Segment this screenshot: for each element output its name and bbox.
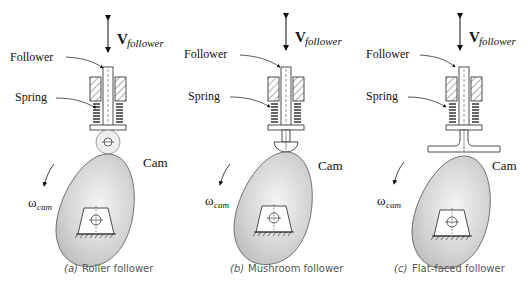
rotation-arrow-icon: [220, 164, 230, 185]
follower-label: Follower: [366, 47, 409, 61]
cam-shape: [56, 154, 134, 267]
omega-label: ω: [205, 193, 214, 208]
velocity-subscript: follower: [127, 37, 164, 49]
rotation-arrow-icon: [44, 164, 54, 186]
cam-label: Cam: [143, 155, 168, 170]
caption-letter: (a): [64, 263, 78, 274]
follower-label: Follower: [184, 47, 227, 61]
follower-stem-assembly: [90, 67, 126, 130]
follower-pointer-icon: [240, 55, 280, 67]
cam-label: Cam: [492, 158, 517, 173]
rotation-arrow-icon: [394, 162, 404, 184]
cam-shape: [412, 156, 490, 269]
follower-label: Follower: [10, 50, 53, 64]
caption-letter: (c): [394, 263, 407, 274]
velocity-subscript: follower: [305, 35, 342, 47]
spring-label: Spring: [15, 90, 47, 104]
omega-subscript: cam: [37, 202, 52, 212]
follower-stem-assembly: [268, 67, 304, 130]
spring-pointer-icon: [408, 97, 446, 107]
diagram-roller-follower: V follower Follower Spring Cam ω cam (a)…: [10, 20, 168, 274]
omega-label: ω: [377, 193, 386, 208]
caption-letter: (b): [230, 263, 244, 274]
follower-stem-assembly: [446, 67, 482, 130]
omega-subscript: cam: [386, 200, 401, 210]
follower-pointer-icon: [66, 57, 103, 68]
diagram-flat-faced-follower: V follower Follower Spring Cam ω cam (c)…: [366, 18, 517, 274]
cam-label: Cam: [318, 158, 343, 173]
spring-pointer-icon: [230, 97, 270, 107]
diagram-mushroom-follower: V follower Follower Spring Cam ω cam (b)…: [184, 18, 344, 274]
spring-label: Spring: [366, 89, 398, 103]
cam-follower-diagrams: V follower Follower Spring Cam ω cam (a)…: [0, 0, 528, 291]
velocity-subscript: follower: [479, 35, 516, 47]
caption-text: Mushroom follower: [248, 263, 344, 274]
spring-label: Spring: [188, 89, 220, 103]
caption-text: Flat-faced follower: [412, 263, 506, 274]
cam-shape: [234, 152, 312, 265]
caption-text: Roller follower: [82, 263, 154, 274]
omega-label: ω: [28, 195, 37, 210]
follower-pointer-icon: [420, 55, 455, 67]
omega-subscript: cam: [214, 200, 229, 210]
